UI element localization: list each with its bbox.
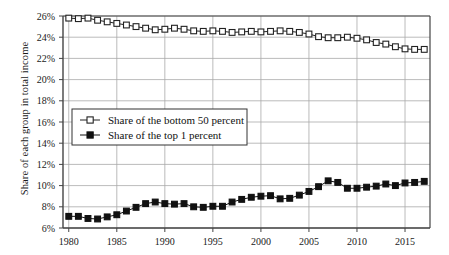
y-tick-label: 10%	[37, 180, 55, 191]
data-point-marker	[124, 208, 130, 214]
data-point-marker	[200, 204, 206, 210]
chart-svg: 6%8%10%12%14%16%18%20%22%24%26% 19801985…	[0, 0, 449, 255]
data-point-marker	[287, 195, 293, 201]
data-point-marker	[393, 44, 399, 50]
series-top-1	[66, 178, 427, 222]
data-point-marker	[220, 28, 226, 34]
chart-container: Share of each group in total income 6%8%…	[0, 0, 449, 255]
data-point-marker	[210, 28, 216, 34]
data-point-marker	[316, 184, 322, 190]
data-point-marker	[66, 213, 72, 219]
chart-legend: Share of the bottom 50 percentShare of t…	[72, 109, 247, 145]
data-point-marker	[172, 25, 178, 31]
data-point-marker	[239, 196, 245, 202]
y-tick-label: 6%	[42, 223, 55, 234]
data-point-marker	[412, 180, 418, 186]
data-point-marker	[383, 181, 389, 187]
data-point-marker	[344, 34, 350, 40]
data-point-marker	[364, 184, 370, 190]
data-point-marker	[229, 30, 235, 36]
y-tick-label: 18%	[37, 95, 55, 106]
data-point-marker	[325, 178, 331, 184]
data-point-marker	[152, 199, 158, 205]
data-point-marker	[258, 193, 264, 199]
series-line	[69, 18, 424, 49]
data-point-marker	[421, 46, 427, 52]
data-point-marker	[75, 16, 81, 22]
data-point-marker	[373, 183, 379, 189]
x-tick-label: 2015	[395, 236, 415, 247]
data-point-marker	[344, 185, 350, 191]
data-point-marker	[66, 15, 72, 21]
y-tick-label: 26%	[37, 11, 55, 22]
y-tick-label: 20%	[37, 74, 55, 85]
legend-marker	[87, 132, 93, 138]
y-tick-label: 12%	[37, 159, 55, 170]
data-point-marker	[402, 46, 408, 52]
x-tick-label: 2010	[347, 236, 367, 247]
data-point-marker	[133, 204, 139, 210]
data-point-marker	[124, 22, 130, 28]
data-point-marker	[152, 27, 158, 33]
data-point-marker	[335, 35, 341, 41]
data-point-marker	[354, 185, 360, 191]
data-point-marker	[95, 216, 101, 222]
legend-marker	[87, 117, 93, 123]
legend-label: Share of the top 1 percent	[108, 129, 221, 141]
data-point-marker	[268, 193, 274, 199]
data-point-marker	[316, 34, 322, 40]
x-tick-label: 1985	[107, 236, 127, 247]
x-tick-label: 1995	[203, 236, 223, 247]
data-point-marker	[335, 180, 341, 186]
x-axis-ticks: 19801985199019952000200520102015	[59, 228, 415, 247]
data-point-marker	[95, 17, 101, 23]
legend-label: Share of the bottom 50 percent	[108, 114, 244, 126]
series-bottom-50	[66, 15, 427, 52]
data-point-marker	[239, 29, 245, 35]
data-point-marker	[402, 180, 408, 186]
y-tick-label: 16%	[37, 117, 55, 128]
data-point-marker	[191, 28, 197, 34]
data-point-marker	[287, 28, 293, 34]
data-point-marker	[296, 30, 302, 36]
x-tick-label: 2005	[299, 236, 319, 247]
data-point-marker	[85, 216, 91, 222]
data-point-marker	[248, 194, 254, 200]
data-point-marker	[277, 28, 283, 34]
data-point-marker	[277, 196, 283, 202]
y-tick-label: 22%	[37, 53, 55, 64]
data-point-marker	[143, 201, 149, 207]
data-point-marker	[421, 178, 427, 184]
y-tick-label: 14%	[37, 138, 55, 149]
data-point-marker	[75, 213, 81, 219]
y-tick-label: 8%	[42, 201, 55, 212]
data-point-marker	[229, 199, 235, 205]
data-point-marker	[306, 189, 312, 195]
data-point-marker	[258, 29, 264, 35]
data-point-marker	[220, 203, 226, 209]
data-point-marker	[104, 19, 110, 25]
data-point-marker	[354, 35, 360, 41]
x-tick-label: 2000	[251, 236, 271, 247]
x-tick-label: 1990	[155, 236, 175, 247]
data-point-marker	[85, 15, 91, 21]
data-point-marker	[181, 26, 187, 32]
y-axis-ticks: 6%8%10%12%14%16%18%20%22%24%26%	[37, 11, 63, 234]
data-point-marker	[162, 201, 168, 207]
x-tick-label: 1980	[59, 236, 79, 247]
data-point-marker	[393, 183, 399, 189]
data-point-marker	[248, 28, 254, 34]
data-point-marker	[143, 25, 149, 31]
data-point-marker	[325, 35, 331, 41]
data-point-marker	[383, 41, 389, 47]
data-point-marker	[162, 26, 168, 32]
data-point-marker	[268, 28, 274, 34]
y-tick-label: 24%	[37, 32, 55, 43]
data-point-marker	[200, 28, 206, 34]
data-point-marker	[191, 204, 197, 210]
data-point-marker	[364, 37, 370, 43]
data-point-marker	[104, 214, 110, 220]
plot-area: 6%8%10%12%14%16%18%20%22%24%26% 19801985…	[0, 0, 449, 255]
data-point-marker	[296, 192, 302, 198]
data-point-marker	[172, 201, 178, 207]
